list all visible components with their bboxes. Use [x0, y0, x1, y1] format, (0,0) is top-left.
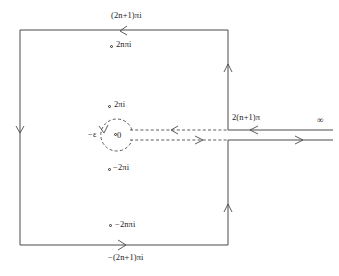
label-epsilon: −ε [88, 130, 97, 139]
label-pole-2npi: 2nπi [116, 40, 132, 49]
label-pole-minus-2pi: −2πi [113, 163, 129, 172]
pole-marker-minus-2npi [109, 224, 112, 227]
label-infinity: ∞ [317, 116, 324, 125]
contour-diagram-figure: (2n+1)πi 2nπi 2πi −ε 0 −2πi −2nπi −(2n+1… [0, 0, 339, 276]
label-right-boundary: 2(n+1)π [232, 113, 260, 122]
label-origin: 0 [117, 131, 121, 140]
label-pole-2pi: 2πi [114, 100, 125, 109]
pole-marker-2pi [108, 105, 111, 108]
label-pole-minus-2npi: −2nπi [115, 220, 135, 229]
label-bottom-boundary: −(2n+1)πi [108, 253, 144, 262]
pole-marker-2npi [110, 45, 113, 48]
contour-svg [0, 0, 339, 276]
pole-marker-minus-2pi [108, 168, 111, 171]
arrow-origin-circle [99, 125, 108, 133]
label-top-boundary: (2n+1)πi [111, 11, 142, 20]
